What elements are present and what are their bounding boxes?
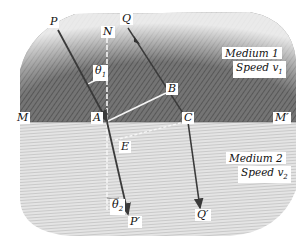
theta1-subscript: 1 [102,71,106,79]
label-p-prime: P′ [128,216,142,228]
label-m-prime: M′ [273,112,291,124]
label-b: B [166,83,178,95]
theta2-subscript: 2 [119,205,123,213]
medium1-name: Medium 1 [222,47,282,59]
label-theta2: θ2 [110,199,125,215]
label-n: N [101,26,115,38]
medium2-speed-subscript: 2 [283,173,287,181]
theta2-symbol: θ [112,198,119,211]
label-a: A [91,112,103,124]
label-q: Q [120,13,133,25]
refraction-diagram: P Q N θ1 B M A C M′ E θ2 P′ Q′ Medium 1 … [0,0,304,245]
medium1-speed: Speed v1 [233,61,286,78]
medium2-speed: Speed v2 [238,166,291,183]
theta1-symbol: θ [95,64,102,77]
medium1-speed-subscript: 1 [278,68,282,76]
label-theta1: θ1 [93,65,108,81]
medium2-name: Medium 2 [226,152,286,164]
label-m: M [15,112,30,124]
label-e: E [119,141,131,153]
label-c: C [182,112,194,124]
diagram-canvas [0,0,304,245]
medium1-speed-text: Speed v [236,61,278,73]
label-p: P [48,16,59,28]
medium2-speed-text: Speed v [241,166,283,178]
label-q-prime: Q′ [195,209,211,221]
